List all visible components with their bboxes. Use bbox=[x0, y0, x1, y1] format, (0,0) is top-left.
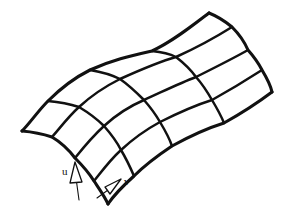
mesh-curve-v-3 bbox=[94, 70, 262, 181]
figure-canvas: u v bbox=[0, 0, 281, 208]
u-direction-curves bbox=[22, 13, 272, 204]
u-axis-arrow bbox=[70, 162, 82, 200]
u-parameter-label: u bbox=[62, 166, 68, 177]
parametric-surface-wireframe bbox=[0, 0, 281, 208]
v-direction-curves bbox=[22, 13, 272, 204]
v-parameter-label: v bbox=[124, 176, 130, 187]
mesh-curve-u-2 bbox=[90, 70, 172, 146]
mesh-curve-v-1 bbox=[52, 27, 232, 137]
mesh-curve-u-4 bbox=[209, 13, 272, 92]
